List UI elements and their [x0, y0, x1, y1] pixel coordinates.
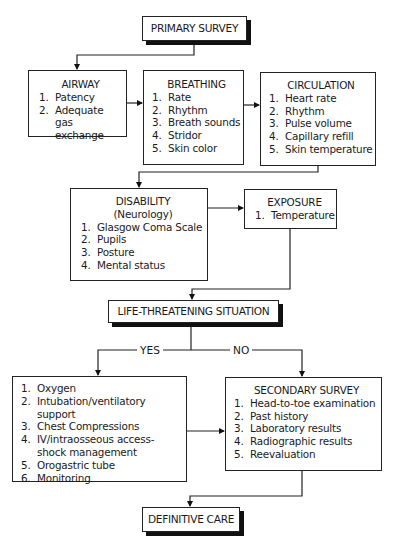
circulation-list: 1.Heart rate 2.Rhythm 3.Pulse volume 4.C…	[269, 92, 373, 156]
branch-label-no: NO	[230, 344, 252, 356]
interventions-list: 1.Oxygen 2.Intubation/ventilatory suppor…	[21, 382, 184, 484]
list-item: 3.Pulse volume	[269, 117, 373, 130]
definitive-care-box: DEFINITIVE CARE	[142, 507, 240, 532]
list-item: 2.Intubation/ventilatory support	[21, 395, 184, 421]
primary-survey-title: PRIMARY SURVEY	[151, 22, 238, 35]
airway-list: 1.Patency 2.Adequate gas exchange	[39, 91, 122, 142]
list-item: 3.Breath sounds	[152, 116, 241, 129]
list-item: 4.Radiographic results	[234, 435, 379, 448]
list-item: 4.Mental status	[81, 259, 205, 272]
circulation-box: CIRCULATION 1.Heart rate 2.Rhythm 3.Puls…	[260, 72, 376, 166]
life-threatening-title: LIFE-THREATENING SITUATION	[118, 305, 270, 318]
secondary-survey-box: SECONDARY SURVEY 1.Head-to-toe examinati…	[225, 377, 382, 471]
disability-title: DISABILITY	[81, 195, 205, 208]
list-item: 1.Heart rate	[269, 92, 373, 105]
list-item: 4.Stridor	[152, 129, 241, 142]
list-item: 3.Laboratory results	[234, 422, 379, 435]
list-item: 3.Chest Compressions	[21, 420, 184, 433]
list-item: 1.Oxygen	[21, 382, 184, 395]
list-item: 2.Past history	[234, 410, 379, 423]
disability-list: 1.Glasgow Coma Scale 2.Pupils 3.Posture …	[81, 221, 205, 272]
branch-label-yes: YES	[137, 344, 163, 356]
exposure-list: 1.Temperature	[255, 209, 334, 222]
list-item: 5.Skin color	[152, 142, 241, 155]
list-item: 5.Reevaluation	[234, 448, 379, 461]
list-item: 4.Capillary refill	[269, 130, 373, 143]
secondary-survey-title: SECONDARY SURVEY	[234, 384, 379, 397]
list-item: 1.Temperature	[255, 209, 334, 222]
list-item: 1.Rate	[152, 91, 241, 104]
list-item: 1.Head-to-toe examination	[234, 397, 379, 410]
exposure-title: EXPOSURE	[255, 196, 334, 209]
breathing-list: 1.Rate 2.Rhythm 3.Breath sounds 4.Strido…	[152, 91, 241, 155]
list-item: 3.Posture	[81, 246, 205, 259]
primary-survey-box: PRIMARY SURVEY	[142, 16, 247, 41]
list-item: 2.Adequate gas exchange	[39, 104, 122, 142]
list-item: 2.Rhythm	[152, 104, 241, 117]
list-item: 2.Rhythm	[269, 105, 373, 118]
circulation-title: CIRCULATION	[269, 79, 373, 92]
disability-box: DISABILITY (Neurology) 1.Glasgow Coma Sc…	[70, 188, 208, 281]
list-item: 1.Glasgow Coma Scale	[81, 221, 205, 234]
interventions-box: 1.Oxygen 2.Intubation/ventilatory suppor…	[12, 376, 187, 482]
list-item: 2.Pupils	[81, 233, 205, 246]
list-item: 5.Skin temperature	[269, 143, 373, 156]
disability-subtitle: (Neurology)	[81, 208, 205, 221]
breathing-title: BREATHING	[152, 78, 241, 91]
list-item: 1.Patency	[39, 91, 122, 104]
definitive-care-title: DEFINITIVE CARE	[148, 513, 234, 526]
airway-title: AIRWAY	[39, 78, 122, 91]
list-item: 4.IV/intraosseous access-shock managemen…	[21, 433, 184, 459]
airway-box: AIRWAY 1.Patency 2.Adequate gas exchange	[28, 70, 127, 137]
life-threatening-box: LIFE-THREATENING SITUATION	[108, 300, 279, 323]
breathing-box: BREATHING 1.Rate 2.Rhythm 3.Breath sound…	[143, 70, 244, 165]
secondary-survey-list: 1.Head-to-toe examination 2.Past history…	[234, 397, 379, 461]
list-item: 6.Monitoring	[21, 472, 184, 485]
exposure-box: EXPOSURE 1.Temperature	[244, 189, 337, 229]
list-item: 5.Orogastric tube	[21, 459, 184, 472]
